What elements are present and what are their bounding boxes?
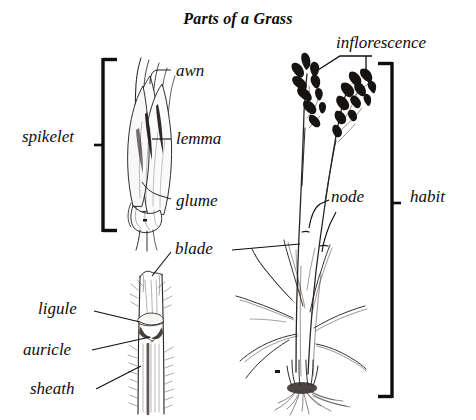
label-blade: blade bbox=[175, 240, 213, 257]
habit-bracket bbox=[378, 62, 401, 398]
label-sheath: sheath bbox=[30, 380, 74, 397]
collar-leader-lines bbox=[92, 244, 300, 389]
label-habit: habit bbox=[410, 188, 445, 205]
label-inflorescence: inflorescence bbox=[336, 34, 426, 51]
label-ligule: ligule bbox=[38, 300, 77, 317]
label-node: node bbox=[331, 188, 364, 205]
label-spikelet: spikelet bbox=[22, 128, 74, 145]
spikelet-drawing bbox=[128, 58, 175, 251]
spikelet-bracket bbox=[94, 58, 117, 232]
leaf-collar-drawing bbox=[128, 271, 174, 414]
label-awn: awn bbox=[176, 62, 204, 79]
habit-drawing bbox=[236, 53, 376, 415]
label-glume: glume bbox=[176, 192, 218, 209]
grass-anatomy-illustration bbox=[0, 0, 476, 420]
label-auricle: auricle bbox=[23, 341, 71, 358]
label-lemma: lemma bbox=[176, 130, 221, 147]
